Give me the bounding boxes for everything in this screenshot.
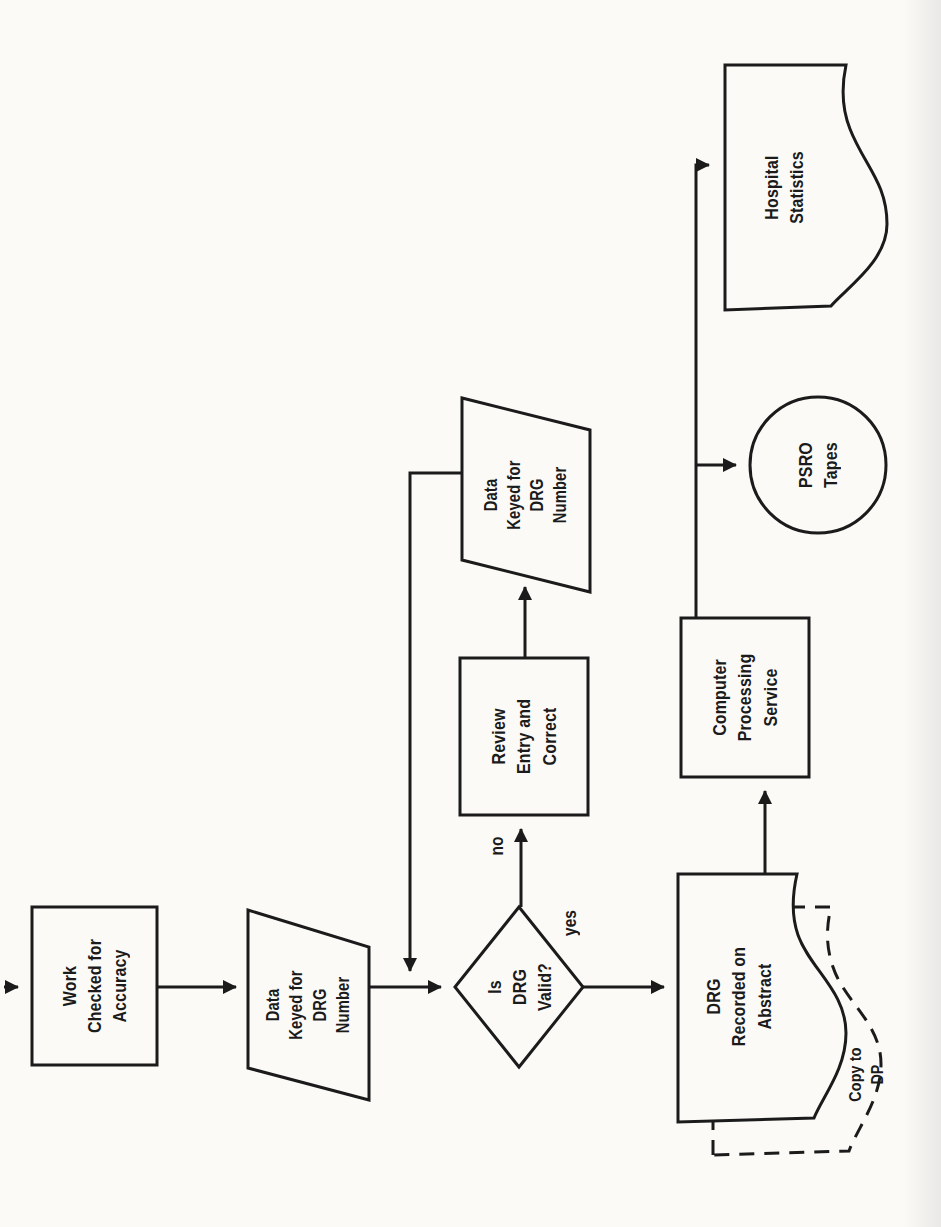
review-entry-label: Review Entry and Correct <box>460 671 588 803</box>
copy-to-dp-label: Copy to DP <box>838 1030 896 1118</box>
edge-label-yes: yes <box>558 893 582 953</box>
flowchart-canvas: Work Checked for Accuracy Data Keyed for… <box>0 0 941 1227</box>
psro-tapes-label: PSRO Tapes <box>785 410 851 519</box>
work-checked-label: Work Checked for Accuracy <box>32 920 157 1053</box>
data-keyed-1-label: Data Keyed for DRG Number <box>248 925 369 1085</box>
data-keyed-2-label: Data Keyed for DRG Number <box>462 416 590 574</box>
drg-recorded-label: DRG Recorded on Abstract <box>680 894 798 1100</box>
scanned-flowchart-page: Work Checked for Accuracy Data Keyed for… <box>0 0 941 1227</box>
edge-rekeyed-feedback <box>410 473 462 971</box>
edge-label-no: no <box>485 816 509 876</box>
computer-processing-label: Computer Processing Service <box>681 631 809 765</box>
edge-processing-to-hospital-statistics <box>696 165 709 618</box>
hospital-statistics-label: Hospital Statistics <box>728 85 840 291</box>
